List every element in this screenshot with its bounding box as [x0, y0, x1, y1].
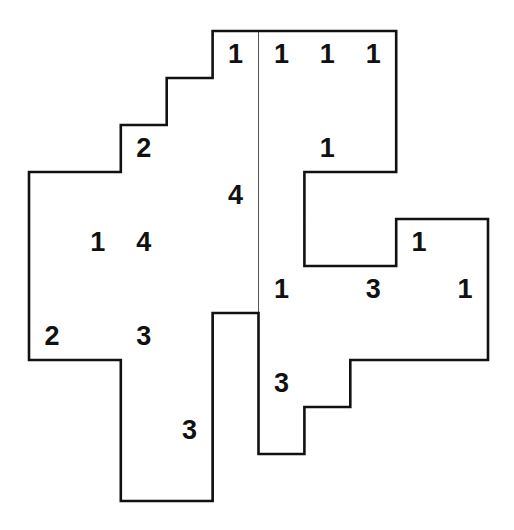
grid-cell[interactable]: [259, 313, 306, 361]
grid-cell[interactable]: 2: [121, 125, 168, 173]
grid-cell[interactable]: [396, 313, 443, 361]
grid-cell[interactable]: [350, 125, 397, 173]
grid-cell[interactable]: [259, 78, 306, 126]
grid-cell[interactable]: 1: [259, 31, 306, 79]
grid-cell[interactable]: 1: [304, 125, 351, 173]
grid-cell[interactable]: [213, 125, 260, 173]
grid-cell[interactable]: [167, 360, 214, 408]
grid-cell[interactable]: [304, 78, 351, 126]
grid-cell[interactable]: [259, 219, 306, 267]
grid-cell[interactable]: [350, 313, 397, 361]
grid-cell[interactable]: [167, 219, 214, 267]
grid-cell[interactable]: [121, 454, 168, 502]
puzzle-board: 11112141411312333: [0, 0, 514, 530]
grid-cell[interactable]: [75, 313, 122, 361]
grid-cell[interactable]: [213, 219, 260, 267]
grid-cell[interactable]: [442, 219, 489, 267]
grid-cell[interactable]: [75, 172, 122, 220]
grid-cell[interactable]: [213, 266, 260, 314]
grid-cell[interactable]: 1: [396, 219, 443, 267]
grid-cell[interactable]: [396, 266, 443, 314]
grid-cell[interactable]: [121, 407, 168, 455]
grid-cell[interactable]: [167, 313, 214, 361]
grid-cell[interactable]: [167, 172, 214, 220]
grid-cell[interactable]: 3: [121, 313, 168, 361]
grid-cell[interactable]: [304, 360, 351, 408]
grid-cell[interactable]: [304, 313, 351, 361]
grid-cell[interactable]: 1: [442, 266, 489, 314]
grid-cell[interactable]: [167, 78, 214, 126]
grid-cell[interactable]: [213, 78, 260, 126]
grid-cell[interactable]: 4: [213, 172, 260, 220]
grid-cell[interactable]: [167, 266, 214, 314]
grid-cell[interactable]: [121, 172, 168, 220]
grid-cell[interactable]: 3: [259, 360, 306, 408]
grid-cell[interactable]: [259, 172, 306, 220]
grid-cell[interactable]: 2: [29, 313, 76, 361]
grid-cell[interactable]: 1: [213, 31, 260, 79]
grid-cell[interactable]: 3: [350, 266, 397, 314]
grid-cell[interactable]: [29, 266, 76, 314]
grid-cell[interactable]: 1: [259, 266, 306, 314]
grid-cell[interactable]: 1: [304, 31, 351, 79]
grid-cell[interactable]: [121, 360, 168, 408]
grid-cell[interactable]: 3: [167, 407, 214, 455]
grid-cell[interactable]: [304, 266, 351, 314]
grid-cell[interactable]: 4: [121, 219, 168, 267]
grid-cell[interactable]: [442, 313, 489, 361]
grid-cell[interactable]: [350, 78, 397, 126]
grid-cell[interactable]: [259, 407, 306, 455]
grid-cell[interactable]: [75, 266, 122, 314]
grid-cell[interactable]: 1: [75, 219, 122, 267]
grid-cell[interactable]: [121, 266, 168, 314]
grid-cell[interactable]: [259, 125, 306, 173]
grid-cell[interactable]: [29, 219, 76, 267]
grid-cell[interactable]: [29, 172, 76, 220]
grid-cell[interactable]: 1: [350, 31, 397, 79]
grid-cell[interactable]: [167, 454, 214, 502]
grid-cell[interactable]: [167, 125, 214, 173]
